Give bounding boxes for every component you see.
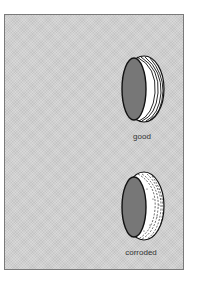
good-label: good [112, 132, 172, 141]
diagram-panel: good corroded [4, 14, 184, 270]
corroded-ring-illustration [117, 169, 167, 243]
good-ring-illustration [117, 53, 167, 125]
corroded-label: corroded [111, 248, 171, 257]
